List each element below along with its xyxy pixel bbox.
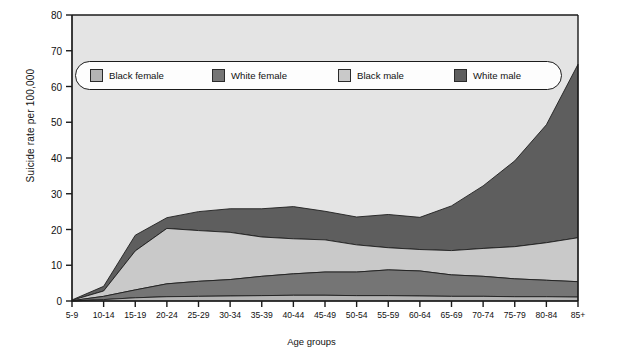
x-axis-tick-label: 55-59 — [377, 310, 399, 320]
x-axis-tick-label: 10-14 — [93, 310, 115, 320]
legend-item: White male — [454, 69, 521, 82]
legend-swatch-icon — [338, 69, 351, 82]
legend-label: White male — [473, 70, 521, 81]
y-axis-tick-label: 30 — [32, 188, 62, 199]
legend-swatch-icon — [90, 69, 103, 82]
x-axis-tick-label: 20-24 — [156, 310, 178, 320]
x-axis-tick-label: 70-74 — [472, 310, 494, 320]
x-axis-tick-label: 80-84 — [535, 310, 557, 320]
x-axis-tick-label: 65-69 — [441, 310, 463, 320]
x-axis-tick-label: 85+ — [571, 310, 586, 320]
x-axis-tick-label: 50-54 — [346, 310, 368, 320]
legend-swatch-icon — [212, 69, 225, 82]
suicide-rate-area-chart: Suicide rate per 100,000 807060504030201… — [0, 0, 623, 360]
chart-legend: Black femaleWhite femaleBlack maleWhite … — [75, 61, 562, 90]
x-axis-tick-label: 75-79 — [504, 310, 526, 320]
x-axis-tick-label: 40-44 — [282, 310, 304, 320]
y-axis-tick-label: 60 — [32, 81, 62, 92]
y-axis-tick-label: 20 — [32, 224, 62, 235]
y-axis-tick-label: 80 — [32, 10, 62, 21]
y-axis-tick-label: 0 — [32, 296, 62, 307]
y-axis-tick-label: 40 — [32, 153, 62, 164]
x-axis-tick-label: 60-64 — [409, 310, 431, 320]
x-axis-tick-label: 45-49 — [314, 310, 336, 320]
legend-label: White female — [231, 70, 287, 81]
plot-area — [0, 0, 623, 360]
y-axis-tick-label: 10 — [32, 260, 62, 271]
y-axis-tick-label: 50 — [32, 117, 62, 128]
legend-label: Black female — [109, 70, 164, 81]
x-axis-tick-label: 30-34 — [219, 310, 241, 320]
x-axis-tick-label: 5-9 — [66, 310, 78, 320]
x-axis-title: Age groups — [0, 336, 623, 347]
y-axis-tick-labels: 80706050403020100 — [28, 0, 62, 320]
y-axis-tick-label: 70 — [32, 45, 62, 56]
legend-swatch-icon — [454, 69, 467, 82]
legend-label: Black male — [357, 70, 404, 81]
x-axis-tick-label: 35-39 — [251, 310, 273, 320]
legend-item: Black female — [90, 69, 164, 82]
x-axis-tick-label: 15-19 — [124, 310, 146, 320]
x-axis-tick-label: 25-29 — [188, 310, 210, 320]
legend-item: White female — [212, 69, 287, 82]
legend-item: Black male — [338, 69, 404, 82]
